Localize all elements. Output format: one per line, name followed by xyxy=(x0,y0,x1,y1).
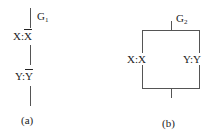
b-right-branch: Y:Y xyxy=(183,53,201,65)
b-left-branch: X:X xyxy=(127,53,146,65)
a-middle-wire xyxy=(30,45,31,65)
a-node-x: X:X xyxy=(13,30,32,42)
a-node-y: Y:Y xyxy=(15,70,33,82)
b-gate-label: G2 xyxy=(176,12,187,24)
a-gate-label: G1 xyxy=(37,10,48,22)
a-caption: (a) xyxy=(21,114,33,126)
a-top-wire xyxy=(30,8,31,28)
b-caption: (b) xyxy=(162,117,175,129)
b-bottom-wire xyxy=(171,88,172,98)
a-bottom-wire xyxy=(30,86,31,106)
